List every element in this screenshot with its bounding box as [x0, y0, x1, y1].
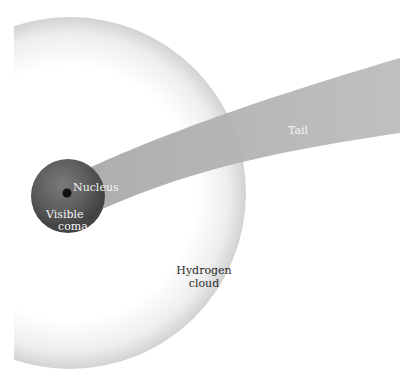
- comet-illustration: [0, 0, 414, 379]
- comet-diagram: Nucleus Visible coma Tail Hydrogen cloud: [0, 0, 414, 379]
- nucleus-label: Nucleus: [73, 181, 119, 194]
- hydrogen-label-line2: cloud: [170, 277, 238, 290]
- hydrogen-label-line1: Hydrogen: [170, 264, 238, 277]
- tail-label: Tail: [288, 124, 308, 137]
- coma-label-line2: coma: [58, 220, 88, 233]
- nucleus: [63, 189, 72, 198]
